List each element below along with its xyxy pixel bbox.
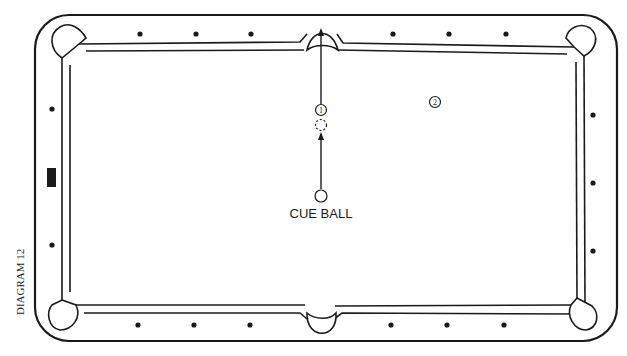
diamond-bottom: [135, 322, 140, 327]
pocket-bottom-middle: [307, 313, 336, 333]
diamond-bottom: [501, 322, 506, 327]
diamond-left: [49, 106, 54, 111]
diamond-top: [390, 31, 395, 36]
diamond-top: [446, 31, 451, 36]
diamond-top: [248, 31, 253, 36]
object-ball-1: 1: [316, 105, 327, 116]
pocket-bottom-right: [569, 298, 596, 330]
table-outer-rail: [35, 15, 617, 341]
ghost-ball: [316, 120, 327, 131]
diamond-top: [193, 31, 198, 36]
diagram-title: DIAGRAM 12: [14, 249, 26, 315]
diamond-bottom: [191, 322, 196, 327]
head-spot-marker: [47, 168, 56, 187]
diamond-right: [590, 248, 595, 253]
ball-1-label: 1: [319, 106, 323, 115]
corner-pockets: [49, 25, 597, 330]
arrow-head-icon: [318, 28, 324, 36]
diamond-bottom: [247, 322, 252, 327]
pocket-bottom-left: [49, 300, 78, 330]
diamond-bottom: [444, 322, 449, 327]
diamond-top: [137, 31, 142, 36]
cue-ball: [315, 190, 327, 202]
diamond-left: [49, 242, 54, 247]
arrow-head-icon: [318, 132, 324, 140]
object-ball-2: 2: [430, 97, 441, 108]
ball-2-label: 2: [433, 98, 437, 107]
pocket-top-left: [52, 25, 86, 58]
diamond-right: [590, 112, 595, 117]
cue-ball-label: CUE BALL: [290, 206, 353, 221]
cushions: [62, 34, 585, 319]
diamond-bottom: [388, 322, 393, 327]
diamond-top: [503, 31, 508, 36]
diamonds: [49, 31, 595, 327]
pocket-top-right: [566, 26, 596, 56]
diamond-right: [590, 180, 595, 185]
pool-table-diagram: 1 2 CUE BALL DIAGRAM 12: [0, 0, 627, 356]
